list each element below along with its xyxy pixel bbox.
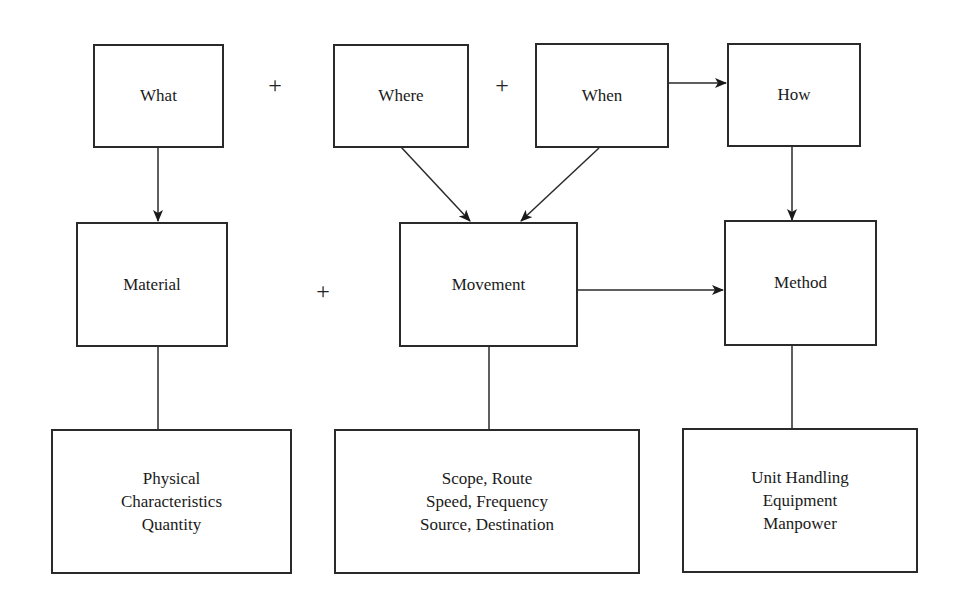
box-method: Method xyxy=(724,220,877,346)
box-when-label: When xyxy=(582,84,623,108)
box-how-label: How xyxy=(777,83,810,107)
movement-detail-line-3: Source, Destination xyxy=(420,513,554,536)
box-when: When xyxy=(535,43,669,148)
box-where: Where xyxy=(333,44,469,148)
box-how: How xyxy=(727,43,861,147)
material-detail-line-2: Characteristics xyxy=(121,490,222,513)
box-what: What xyxy=(93,44,224,148)
box-material-details: Physical Characteristics Quantity xyxy=(51,429,292,574)
box-movement-details: Scope, Route Speed, Frequency Source, De… xyxy=(334,429,640,574)
box-what-label: What xyxy=(140,84,177,108)
material-detail-line-1: Physical xyxy=(121,467,222,490)
box-method-details: Unit Handling Equipment Manpower xyxy=(682,428,918,573)
box-method-label: Method xyxy=(774,271,827,295)
box-movement: Movement xyxy=(399,222,578,347)
plus-operator-what-where: + xyxy=(268,73,282,97)
material-detail-line-3: Quantity xyxy=(121,513,222,536)
plus-operator-where-when: + xyxy=(495,73,509,97)
box-material: Material xyxy=(76,222,228,347)
box-where-label: Where xyxy=(378,84,423,108)
box-movement-label: Movement xyxy=(452,273,526,297)
plus-operator-material-movement: + xyxy=(316,279,330,303)
movement-detail-line-1: Scope, Route xyxy=(420,467,554,490)
arrow-when-to-movement xyxy=(521,148,599,221)
box-material-label: Material xyxy=(123,273,181,297)
movement-detail-line-2: Speed, Frequency xyxy=(420,490,554,513)
method-detail-line-2: Equipment xyxy=(751,489,849,512)
method-detail-line-1: Unit Handling xyxy=(751,466,849,489)
method-detail-line-3: Manpower xyxy=(751,512,849,535)
arrow-where-to-movement xyxy=(401,147,470,221)
